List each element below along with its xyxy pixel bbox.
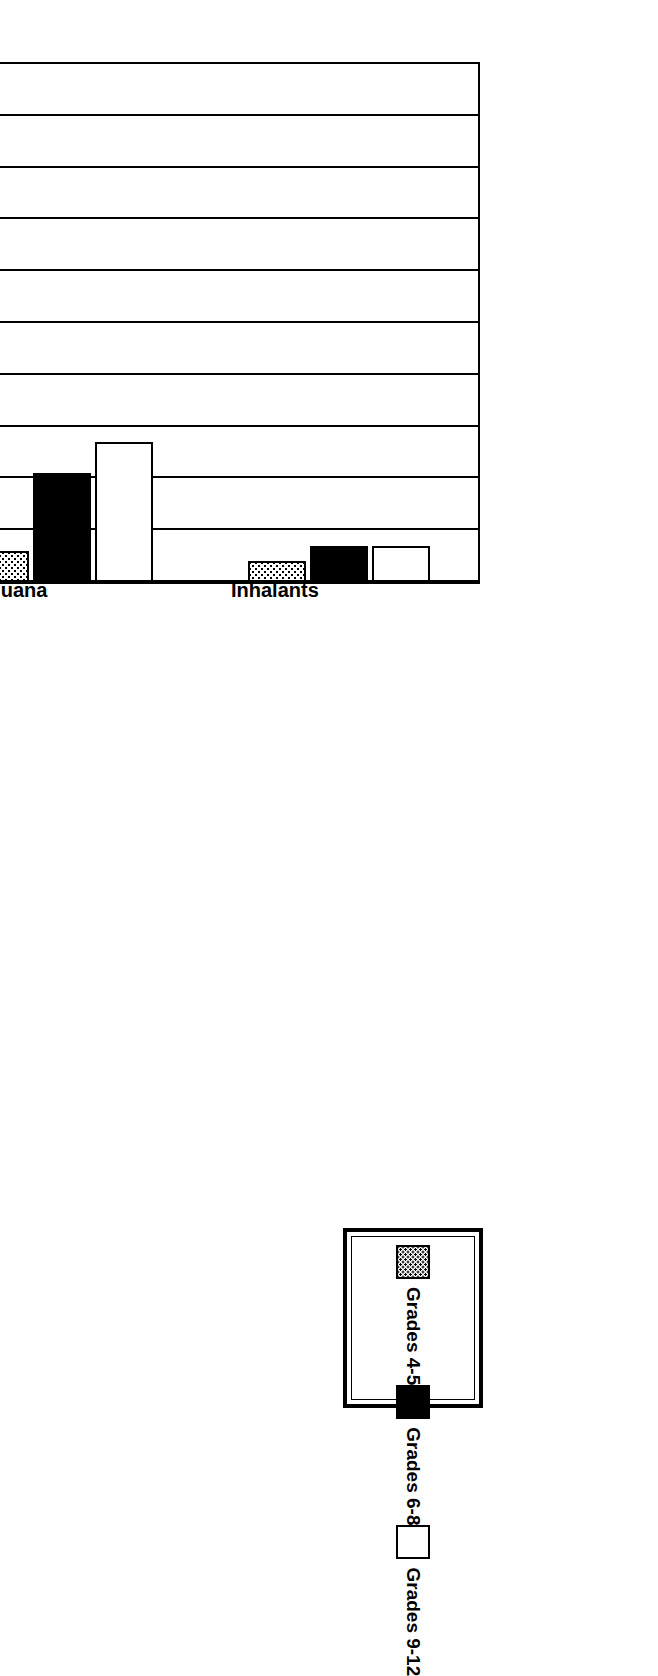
white-swatch-icon (396, 1525, 430, 1559)
chart-legend: Grades 4-5 Grades 6-8 Grades 9-12 (343, 1228, 483, 1408)
legend-entry-grades-4-5: Grades 4-5 (358, 1245, 468, 1385)
legend-label: Grades 9-12 (402, 1567, 424, 1676)
category-label-inhalants: Inhalants (231, 579, 451, 602)
bar-group-marijuana (0, 64, 201, 582)
plot-area (0, 62, 480, 584)
bar-marijuana-grades-6-8 (33, 473, 91, 582)
legend-label: Grades 6-8 (402, 1427, 424, 1525)
legend-entry-grades-6-8: Grades 6-8 (358, 1385, 468, 1525)
legend-label: Grades 4-5 (402, 1287, 424, 1385)
legend-entry-grades-9-12: Grades 9-12 (358, 1525, 468, 1676)
dotted-swatch-icon (396, 1245, 430, 1279)
black-swatch-icon (396, 1385, 430, 1419)
bar-marijuana-grades-4-5 (0, 551, 29, 582)
category-label-marijuana: Marijuana (0, 579, 174, 602)
bar-group-inhalants (201, 64, 479, 582)
bar-inhalants-grades-6-8 (310, 546, 368, 582)
legend-inner-frame: Grades 4-5 Grades 6-8 Grades 9-12 (351, 1236, 475, 1400)
bar-marijuana-grades-9-12 (95, 442, 153, 582)
bar-inhalants-grades-9-12 (372, 546, 430, 582)
